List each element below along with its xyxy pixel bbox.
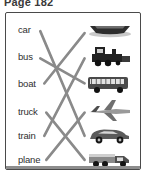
bus-image[interactable] [86,71,134,95]
word-label-truck[interactable]: truck [18,106,38,117]
word-label-boat[interactable]: boat [18,78,36,89]
matching-exercise-area[interactable]: carbusboattrucktrainplane [6,13,140,169]
word-label-train[interactable]: train [18,130,35,141]
word-label-car[interactable]: car [18,24,31,35]
plane-image[interactable] [86,99,134,123]
bottom-divider [6,166,140,169]
worksheet-container: carbusboattrucktrainplane [5,12,141,170]
word-label-bus[interactable]: bus [18,51,33,62]
connection-line-boat[interactable] [44,33,84,83]
car-image[interactable] [86,123,134,147]
train-image[interactable] [86,44,134,68]
word-label-plane[interactable]: plane [18,154,40,165]
boat-image[interactable] [86,17,134,41]
page-title: Page 182 [4,0,53,8]
